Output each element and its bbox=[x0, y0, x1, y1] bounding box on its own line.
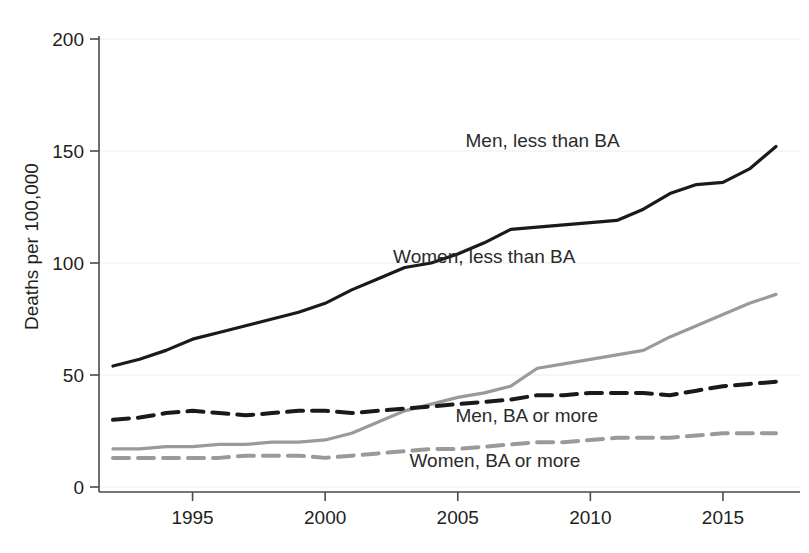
y-tick-label: 50 bbox=[63, 365, 84, 386]
series-line bbox=[113, 294, 776, 449]
series-label: Women, less than BA bbox=[393, 246, 576, 267]
x-tick-label: 2000 bbox=[304, 507, 346, 528]
x-axis: 19952000200520102015 bbox=[99, 492, 800, 528]
series-labels: Men, less than BAWomen, less than BAMen,… bbox=[393, 130, 620, 471]
line-chart: 050100150200 19952000200520102015 Men, l… bbox=[0, 0, 809, 553]
series-label: Women, BA or more bbox=[410, 450, 581, 471]
y-tick-label: 150 bbox=[52, 141, 84, 162]
series-label: Men, BA or more bbox=[455, 405, 598, 426]
y-tick-label: 0 bbox=[73, 477, 84, 498]
y-axis: 050100150200 bbox=[52, 29, 99, 498]
x-tick-label: 2015 bbox=[702, 507, 744, 528]
y-axis-title: Deaths per 100,000 bbox=[21, 163, 42, 330]
x-tick-label: 2010 bbox=[569, 507, 611, 528]
x-tick-label: 2005 bbox=[437, 507, 479, 528]
series-group bbox=[113, 147, 776, 458]
series-label: Men, less than BA bbox=[466, 130, 621, 151]
x-tick-label: 1995 bbox=[171, 507, 213, 528]
y-tick-label: 200 bbox=[52, 29, 84, 50]
chart-container: 050100150200 19952000200520102015 Men, l… bbox=[0, 0, 809, 553]
y-tick-label: 100 bbox=[52, 253, 84, 274]
